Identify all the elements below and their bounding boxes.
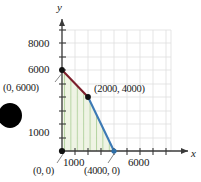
x-axis-arrowhead [181,148,188,154]
y-tick-label-1000: 1000 [28,127,49,138]
leader-4000-0 [108,154,114,163]
x-axis-label: x [191,148,196,159]
y-tick-label-6000: 6000 [28,64,49,75]
x-tick-label-6000: 6000 [128,157,149,168]
point-label-0-6000: (0, 6000) [3,83,39,94]
point-marker-0-6000 [59,67,65,73]
y-axis-label: y [57,2,62,13]
x-tick-label-1000: 1000 [63,157,84,168]
point-label-0-0: (0, 0) [33,166,54,177]
y-tick-label-8000: 8000 [28,38,49,49]
point-marker-0-0 [59,148,65,154]
point-label-2000-4000: (2000, 4000) [94,84,145,95]
point-marker-2000-4000 [85,94,91,100]
y-axis-arrowhead [59,19,65,26]
coordinate-plane-figure: 8000 6000 1000 1000 6000 x y (0, 6000) (… [0,0,201,182]
point-label-4000-0: (4000, 0) [84,166,120,177]
point-marker-4000-0 [111,148,116,153]
